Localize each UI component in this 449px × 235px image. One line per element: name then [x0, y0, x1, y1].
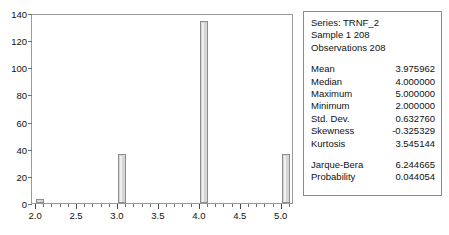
- statistic-value: 4.000000: [395, 76, 435, 88]
- statistic-row: Std. Dev.0.632760: [311, 113, 435, 125]
- x-axis-minor-tick: [68, 204, 69, 207]
- x-axis-major-tick: [117, 204, 118, 209]
- statistic-label: Skewness: [311, 125, 354, 137]
- statistics-spacer-1: [311, 54, 435, 63]
- statistic-row: Probability0.044054: [311, 171, 435, 183]
- statistic-label: Maximum: [311, 88, 352, 100]
- x-axis-tick-label: 4.5: [233, 210, 246, 221]
- y-axis-tick-mark: [28, 123, 32, 124]
- histogram-chart: 020406080100120140 2.02.53.03.54.04.55.0: [0, 0, 300, 235]
- x-axis-tick-labels: 2.02.53.03.54.04.55.0: [31, 210, 293, 226]
- statistic-value: 5.000000: [395, 88, 435, 100]
- x-axis-major-tick: [240, 204, 241, 209]
- statistic-row: Mean3.975962: [311, 63, 435, 75]
- x-axis-minor-tick: [215, 204, 216, 207]
- x-axis-major-tick: [158, 204, 159, 209]
- y-axis-tick-label: 60: [16, 117, 27, 128]
- y-axis-tick-mark: [28, 41, 32, 42]
- statistic-row: Skewness-0.325329: [311, 125, 435, 137]
- x-axis-tick-label: 3.0: [110, 210, 123, 221]
- statistic-label: Jarque-Bera: [311, 159, 363, 171]
- statistics-tests: Jarque-Bera6.244665Probability0.044054: [311, 159, 435, 184]
- y-axis-tick-label: 0: [22, 199, 27, 210]
- statistics-moments: Mean3.975962Median4.000000Maximum5.00000…: [311, 63, 435, 150]
- statistic-label: Probability: [311, 171, 355, 183]
- x-axis-minor-tick: [125, 204, 126, 207]
- statistic-row: Median4.000000: [311, 76, 435, 88]
- x-axis-minor-tick: [43, 204, 44, 207]
- y-axis-tick-mark: [28, 68, 32, 69]
- x-axis-tick-label: 3.5: [151, 210, 164, 221]
- statistics-panel: Series: TRNF_2Sample 1 208Observations 2…: [303, 11, 442, 196]
- histogram-bar: [200, 21, 208, 203]
- x-axis-minor-tick: [191, 204, 192, 207]
- statistic-label: Std. Dev.: [311, 113, 349, 125]
- plot-frame: [31, 14, 293, 204]
- statistics-header: Series: TRNF_2Sample 1 208Observations 2…: [311, 17, 435, 54]
- statistic-value: 3.545144: [395, 138, 435, 150]
- y-axis-tick-label: 100: [11, 63, 27, 74]
- histogram-bar-highlight: [38, 201, 40, 202]
- x-axis-minor-tick: [166, 204, 167, 207]
- y-axis-tick-label: 40: [16, 144, 27, 155]
- y-axis-tick-mark: [28, 177, 32, 178]
- x-axis-minor-tick: [109, 204, 110, 207]
- statistics-header-line: Series: TRNF_2: [311, 17, 435, 29]
- statistics-spacer-2: [311, 150, 435, 159]
- y-axis-tick-mark: [28, 150, 32, 151]
- x-axis-tick-label: 4.0: [192, 210, 205, 221]
- y-axis-tick-labels: 020406080100120140: [0, 0, 27, 235]
- x-axis-minor-tick: [150, 204, 151, 207]
- x-axis-minor-tick: [256, 204, 257, 207]
- y-axis-tick-label: 140: [11, 9, 27, 20]
- x-axis-tick-label: 2.0: [28, 210, 41, 221]
- x-axis-minor-tick: [60, 204, 61, 207]
- x-axis-minor-tick: [92, 204, 93, 207]
- x-axis-tick-label: 2.5: [69, 210, 82, 221]
- statistics-header-line: Observations 208: [311, 42, 435, 54]
- y-axis-tick-label: 80: [16, 90, 27, 101]
- x-axis-minor-tick: [174, 204, 175, 207]
- x-axis-major-tick: [35, 204, 36, 209]
- statistic-value: 3.975962: [395, 63, 435, 75]
- statistic-value: -0.325329: [392, 125, 435, 137]
- y-axis-tick-label: 120: [11, 36, 27, 47]
- x-axis-minor-tick: [248, 204, 249, 207]
- x-axis-minor-tick: [51, 204, 52, 207]
- x-axis-minor-tick: [223, 204, 224, 207]
- y-axis-tick-mark: [28, 14, 32, 15]
- statistic-row: Jarque-Bera6.244665: [311, 159, 435, 171]
- x-axis-minor-tick: [133, 204, 134, 207]
- statistic-row: Minimum2.000000: [311, 100, 435, 112]
- statistic-label: Kurtosis: [311, 138, 345, 150]
- histogram-summary-figure: 020406080100120140 2.02.53.03.54.04.55.0…: [0, 0, 449, 235]
- x-axis-minor-tick: [273, 204, 274, 207]
- y-axis-tick-label: 20: [16, 171, 27, 182]
- x-axis-minor-tick: [289, 204, 290, 207]
- x-axis-major-tick: [76, 204, 77, 209]
- statistic-label: Minimum: [311, 100, 350, 112]
- x-axis-major-tick: [281, 204, 282, 209]
- x-axis-minor-tick: [182, 204, 183, 207]
- x-axis-minor-tick: [142, 204, 143, 207]
- statistics-header-line: Sample 1 208: [311, 29, 435, 41]
- histogram-bar-highlight: [120, 156, 122, 202]
- x-axis-minor-tick: [264, 204, 265, 207]
- x-axis-minor-tick: [232, 204, 233, 207]
- statistic-row: Kurtosis3.545144: [311, 138, 435, 150]
- statistic-value: 6.244665: [395, 159, 435, 171]
- histogram-bar-highlight: [202, 23, 204, 202]
- statistic-value: 2.000000: [395, 100, 435, 112]
- histogram-bar: [36, 199, 44, 203]
- histogram-bar: [282, 154, 290, 203]
- x-axis-minor-tick: [84, 204, 85, 207]
- y-axis-tick-mark: [28, 95, 32, 96]
- x-axis-major-tick: [199, 204, 200, 209]
- statistic-label: Median: [311, 76, 342, 88]
- x-axis-minor-tick: [207, 204, 208, 207]
- histogram-bar: [118, 154, 126, 203]
- statistic-label: Mean: [311, 63, 335, 75]
- x-axis-tick-label: 5.0: [274, 210, 287, 221]
- statistic-value: 0.632760: [395, 113, 435, 125]
- statistic-row: Maximum5.000000: [311, 88, 435, 100]
